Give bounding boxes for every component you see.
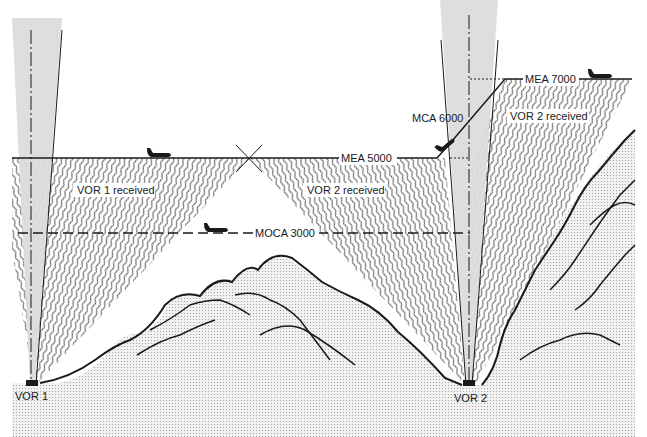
label-vor2-received-left: VOR 2 received — [307, 184, 385, 196]
label-vor2: VOR 2 — [454, 392, 487, 404]
label-vor1: VOR 1 — [15, 390, 48, 402]
vor1-station-icon — [26, 380, 38, 386]
aircraft-icon — [204, 223, 228, 232]
aircraft-icon — [147, 148, 171, 157]
vor2-station-icon — [463, 380, 475, 386]
label-mea-5000: MEA 5000 — [341, 152, 392, 164]
label-moca-3000: MOCA 3000 — [255, 227, 315, 239]
aircraft-icon — [588, 69, 612, 78]
label-vor1-received: VOR 1 received — [77, 184, 155, 196]
label-vor2-received-right: VOR 2 received — [510, 110, 588, 122]
label-mea-7000: MEA 7000 — [525, 73, 576, 85]
vor-altitude-diagram: VOR 1 received VOR 2 received VOR 2 rece… — [0, 0, 647, 437]
label-mca-6000: MCA 6000 — [412, 112, 463, 124]
